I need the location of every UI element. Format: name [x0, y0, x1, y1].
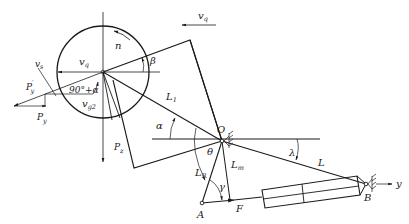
label-y: y — [395, 178, 402, 189]
pivot-A — [200, 201, 204, 205]
lambda-arc — [296, 139, 298, 160]
label-alpha: α — [156, 120, 163, 131]
label-vs: vs — [35, 59, 44, 71]
pivot-B — [364, 182, 368, 186]
beta-arc — [142, 58, 144, 72]
label-Py: Py — [36, 112, 47, 125]
label-n: n — [115, 40, 121, 51]
label-L1: L1 — [165, 91, 177, 104]
label-90-alpha: 90°+α — [69, 85, 99, 95]
label-LR: LR — [194, 167, 208, 180]
label-B: B — [363, 192, 371, 203]
label-gamma: γ — [219, 181, 225, 192]
vs-line — [38, 68, 56, 96]
label-F: F — [235, 203, 244, 214]
rotation-n-arrow — [114, 31, 130, 40]
label-Lm: Lm — [230, 159, 244, 172]
label-vg2: vg2 — [82, 98, 96, 111]
label-vq-top: vq — [198, 10, 208, 23]
F-arrow — [202, 200, 234, 203]
label-theta: θ — [207, 146, 213, 157]
alpha-arc — [170, 118, 175, 139]
label-vq-circle: vq — [79, 56, 89, 69]
label-O: O — [217, 124, 225, 135]
ground-support-B — [368, 174, 376, 192]
mechanism-diagram: n vq vq vs P′y 90°+α vg2 Py Pz β L1 α O … — [0, 0, 409, 224]
spoke-1 — [103, 72, 112, 120]
label-beta: β — [149, 55, 156, 66]
hydraulic-cylinder — [262, 176, 360, 208]
label-L: L — [317, 157, 325, 168]
label-Pz: Pz — [113, 142, 124, 155]
label-lambda: λ — [288, 147, 295, 158]
label-A: A — [196, 209, 204, 220]
rod-line — [234, 197, 262, 200]
label-Py-prime: P′y — [25, 79, 35, 95]
pivot-O — [220, 139, 224, 143]
spoke-2 — [103, 72, 120, 118]
